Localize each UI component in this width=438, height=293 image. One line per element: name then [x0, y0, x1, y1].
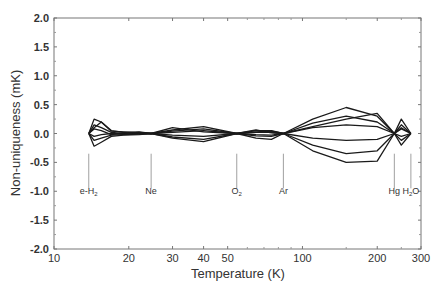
data-curve [89, 134, 411, 163]
y-tick-label: 0.0 [34, 128, 49, 140]
fixed-point-label: Hg [389, 186, 401, 196]
x-axis-title: Temperature (K) [191, 266, 285, 281]
y-tick-label: -0.5 [30, 156, 49, 168]
y-axis-title: Non-uniqueness (mK) [8, 70, 23, 196]
y-tick-label: -2.0 [30, 243, 49, 255]
x-tick-label: 40 [197, 252, 209, 264]
x-tick-label: 300 [412, 252, 430, 264]
x-tick-label: 50 [222, 252, 234, 264]
x-tick-label: 200 [368, 252, 386, 264]
fixed-point-annotations: e-H2NeO2ArHgH2O [80, 154, 419, 198]
fixed-point-label: e-H2 [80, 186, 99, 197]
y-tick-label: 0.5 [34, 99, 49, 111]
fixed-point-label: Ar [279, 186, 288, 196]
chart: 2.01.51.00.50.0-0.5-1.0-1.5-2.0 10203040… [0, 0, 438, 293]
x-tick-label: 10 [48, 252, 60, 264]
y-tick-label: -1.5 [30, 214, 49, 226]
fixed-point-label: O2 [232, 186, 243, 197]
y-tick-label: 1.0 [34, 70, 49, 82]
x-tick-label: 20 [123, 252, 135, 264]
y-tick-label: -1.0 [30, 185, 49, 197]
data-curve [89, 113, 411, 133]
data-curves [89, 108, 411, 163]
x-tick-label: 100 [293, 252, 311, 264]
y-tick-label: 2.0 [34, 12, 49, 24]
data-curve [89, 108, 411, 134]
fixed-point-label: Ne [145, 186, 157, 196]
x-axis: 1020304050100200300 [48, 18, 430, 264]
x-tick-label: 30 [166, 252, 178, 264]
y-tick-label: 1.5 [34, 41, 49, 53]
